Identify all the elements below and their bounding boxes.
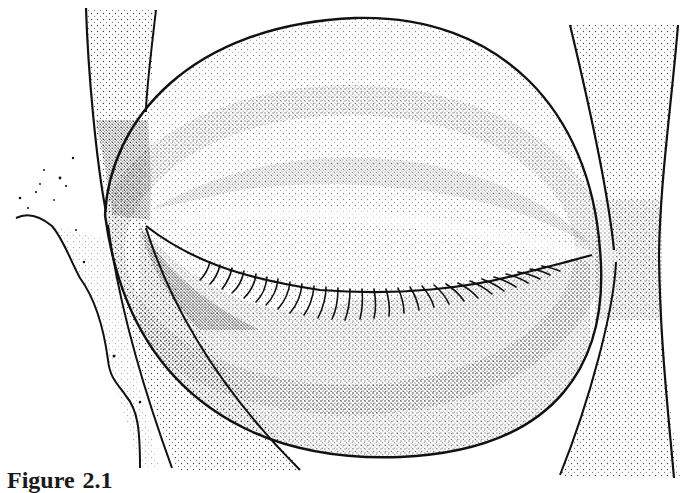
caption-number: 2.1 [83, 467, 113, 493]
figure-caption: Figure2.1 [7, 468, 113, 492]
caption-label: Figure [7, 467, 75, 493]
